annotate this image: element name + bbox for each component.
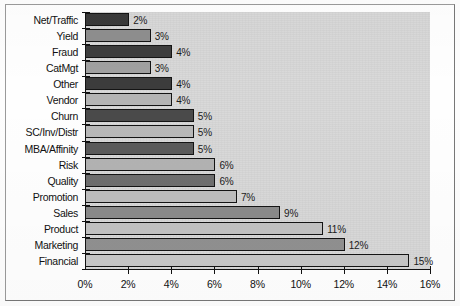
x-axis-tick — [214, 266, 215, 274]
bar — [86, 77, 172, 90]
bar — [86, 254, 409, 267]
x-axis-tick — [301, 266, 302, 274]
category-label: Marketing — [0, 237, 78, 253]
x-axis-tick-label: 0% — [78, 278, 93, 290]
bar-value-label: 12% — [349, 239, 368, 250]
x-axis-tick-label: 16% — [420, 278, 440, 290]
bar-value-label: 6% — [219, 159, 233, 170]
bar-value-label: 3% — [155, 31, 169, 42]
x-axis-tick-label: 10% — [290, 278, 310, 290]
bar-chart-figure: Net/TrafficYieldFraudCatMgtOtherVendorCh… — [0, 0, 460, 306]
category-label: Vendor — [0, 92, 78, 108]
bar-row: 5% — [86, 141, 430, 157]
category-label: Net/Traffic — [0, 12, 78, 28]
category-label: Churn — [0, 108, 78, 124]
bar — [86, 238, 345, 251]
bar — [86, 142, 194, 155]
x-axis-tick-label: 2% — [121, 278, 136, 290]
category-label: Sales — [0, 205, 78, 221]
x-axis-tick — [387, 266, 388, 274]
bar-row: 6% — [86, 173, 430, 189]
bar-row: 4% — [86, 76, 430, 92]
category-label: Financial — [0, 253, 78, 269]
category-label: Promotion — [0, 189, 78, 205]
bar-value-label: 4% — [176, 79, 190, 90]
bar-row: 6% — [86, 157, 430, 173]
bar — [86, 29, 151, 42]
bar-row: 5% — [86, 124, 430, 140]
category-label: Fraud — [0, 44, 78, 60]
bar-row: 3% — [86, 28, 430, 44]
bar — [86, 13, 129, 26]
bar-value-label: 5% — [198, 127, 212, 138]
x-axis-tick — [171, 266, 172, 274]
bar-value-label: 4% — [176, 47, 190, 58]
bar — [86, 61, 151, 74]
bar-value-label: 15% — [413, 255, 432, 266]
category-label: Product — [0, 221, 78, 237]
bar-row: 11% — [86, 221, 430, 237]
bar — [86, 222, 323, 235]
bar — [86, 206, 280, 219]
bar — [86, 158, 215, 171]
bar-value-label: 5% — [198, 111, 212, 122]
category-label: CatMgt — [0, 60, 78, 76]
x-axis-tick-label: 4% — [164, 278, 179, 290]
category-label: Quality — [0, 173, 78, 189]
category-axis-labels: Net/TrafficYieldFraudCatMgtOtherVendorCh… — [0, 12, 82, 269]
category-label: Risk — [0, 157, 78, 173]
bar-row: 3% — [86, 60, 430, 76]
x-axis-tick-label: 6% — [207, 278, 222, 290]
category-label: SC/Inv/Distr — [0, 124, 78, 140]
x-axis-tick — [344, 266, 345, 274]
category-label: Yield — [0, 28, 78, 44]
bar-value-label: 2% — [133, 15, 147, 26]
bar-value-label: 5% — [198, 143, 212, 154]
bar — [86, 45, 172, 58]
bar — [86, 190, 237, 203]
bar-value-label: 9% — [284, 207, 298, 218]
x-axis-tick — [430, 266, 431, 274]
x-axis-tick — [128, 266, 129, 274]
bar — [86, 125, 194, 138]
bar — [86, 174, 215, 187]
bar-row: 4% — [86, 44, 430, 60]
x-axis-tick-label: 14% — [377, 278, 397, 290]
category-label: MBA/Affinity — [0, 141, 78, 157]
bar-value-label: 6% — [219, 175, 233, 186]
x-axis-tick-label: 8% — [250, 278, 265, 290]
bar-row: 2% — [86, 12, 430, 28]
bar-row: 12% — [86, 237, 430, 253]
x-axis-tick-label: 12% — [334, 278, 354, 290]
bar-value-label: 11% — [327, 223, 346, 234]
bar-row: 7% — [86, 189, 430, 205]
bar-row: 5% — [86, 108, 430, 124]
x-axis: 0%2%4%6%8%10%12%14%16% — [85, 269, 430, 270]
bar-row: 9% — [86, 205, 430, 221]
bar-value-label: 3% — [155, 63, 169, 74]
plot-area: 2%3%4%3%4%4%5%5%5%6%6%7%9%11%12%15% — [85, 12, 430, 269]
bar — [86, 109, 194, 122]
category-label: Other — [0, 76, 78, 92]
x-axis-tick — [258, 266, 259, 274]
bar-value-label: 4% — [176, 95, 190, 106]
bar — [86, 93, 172, 106]
bar-value-label: 7% — [241, 191, 255, 202]
bar-row: 4% — [86, 92, 430, 108]
